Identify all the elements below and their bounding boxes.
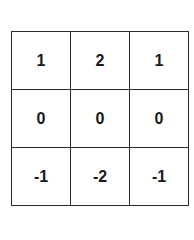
matrix-row-2: 0 0 0	[12, 90, 189, 148]
kernel-matrix: 1 2 1 0 0 0 -1 -2 -1	[11, 31, 189, 206]
matrix-cell-r2-c2: 0	[71, 90, 130, 148]
matrix-cell-r3-c2: -2	[71, 148, 130, 206]
matrix-cell-r1-c1: 1	[12, 32, 71, 90]
matrix-row-1: 1 2 1	[12, 32, 189, 90]
matrix-cell-r1-c2: 2	[71, 32, 130, 90]
matrix-row-3: -1 -2 -1	[12, 148, 189, 206]
matrix-cell-r2-c1: 0	[12, 90, 71, 148]
matrix-cell-r2-c3: 0	[130, 90, 189, 148]
matrix-cell-r3-c1: -1	[12, 148, 71, 206]
matrix-cell-r3-c3: -1	[130, 148, 189, 206]
matrix-cell-r1-c3: 1	[130, 32, 189, 90]
